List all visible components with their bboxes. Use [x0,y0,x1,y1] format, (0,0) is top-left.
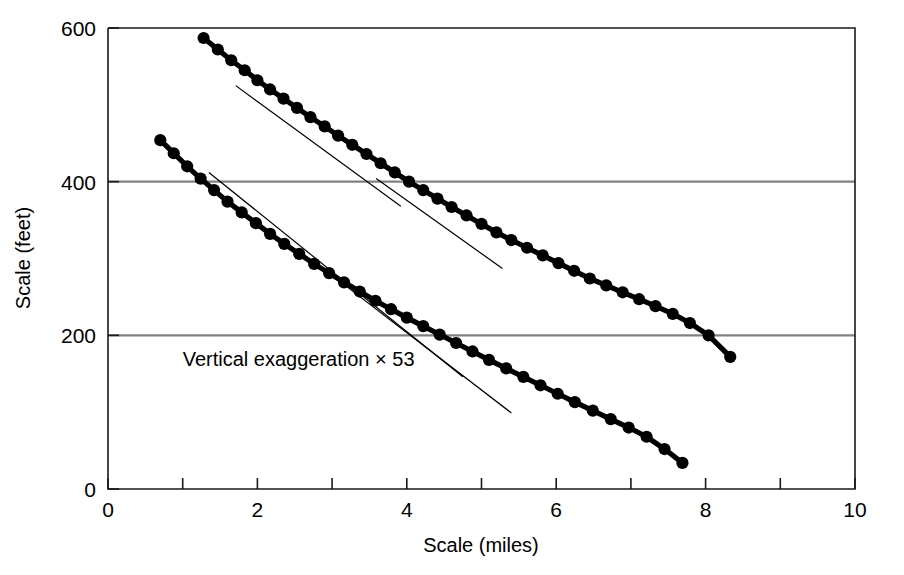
data-point [323,267,335,279]
data-point [375,157,387,169]
data-point [403,176,415,188]
data-point [401,312,413,324]
data-point [417,320,429,332]
data-point [431,192,443,204]
data-point [534,379,546,391]
annotation-vertical-exaggeration: Vertical exaggeration × 53 [183,348,415,370]
x-tick-label-6: 6 [550,498,562,521]
data-point [676,457,688,469]
data-point [291,102,303,114]
data-point [264,83,276,95]
data-point [278,238,290,250]
data-point [369,295,381,307]
data-point [338,276,350,288]
data-point [354,285,366,297]
data-point [568,265,580,277]
data-point [649,300,661,312]
data-point [277,93,289,105]
data-point [450,337,462,349]
data-point [552,388,564,400]
annotations-group: Vertical exaggeration × 53 [183,348,415,370]
data-point [434,328,446,340]
data-point [640,431,652,443]
data-point [168,147,180,159]
data-point [251,74,263,86]
data-point [505,234,517,246]
y-tick-label-400: 400 [61,171,96,194]
data-point [584,272,596,284]
data-point [389,166,401,178]
x-tick-label-2: 2 [252,498,264,521]
data-point [623,421,635,433]
data-point [239,64,251,76]
y-axis-title: Scale (feet) [12,207,34,309]
chart-svg: 0246810 0200400600 Scale (miles) Scale (… [0,0,904,575]
data-point [483,354,495,366]
data-point [264,228,276,240]
data-point [466,345,478,357]
data-point [617,286,629,298]
data-point [346,139,358,151]
data-point [605,413,617,425]
data-point [587,405,599,417]
data-point [460,209,472,221]
y-tick-label-200: 200 [61,324,96,347]
data-point [658,443,670,455]
chart-figure: 0246810 0200400600 Scale (miles) Scale (… [0,0,904,575]
x-axis-title: Scale (miles) [423,534,539,556]
data-point [475,218,487,230]
data-point [417,184,429,196]
data-point [724,351,736,363]
data-point [250,217,262,229]
data-point [490,226,502,238]
data-point [569,396,581,408]
data-point [702,329,714,341]
data-point [537,249,549,261]
x-tick-label-8: 8 [700,498,712,521]
x-tick-label-0: 0 [102,498,114,521]
data-point [385,303,397,315]
data-point [684,317,696,329]
data-point [521,242,533,254]
data-point [154,134,166,146]
y-tick-label-600: 600 [61,17,96,40]
data-point [225,54,237,66]
data-point [552,257,564,269]
data-point [332,129,344,141]
data-point [667,308,679,320]
data-point [500,362,512,374]
data-point [308,258,320,270]
data-point [293,248,305,260]
x-tick-label-4: 4 [401,498,413,521]
data-point [195,172,207,184]
data-point [221,196,233,208]
data-point [446,201,458,213]
data-point [212,43,224,55]
y-tick-label-0: 0 [84,478,96,501]
x-tick-label-10: 10 [843,498,866,521]
data-point [517,371,529,383]
data-point [633,293,645,305]
data-point [600,279,612,291]
data-point [236,206,248,218]
data-point [181,160,193,172]
data-point [319,120,331,132]
data-point [360,148,372,160]
data-point [304,111,316,123]
data-point [198,32,210,44]
data-point [208,184,220,196]
